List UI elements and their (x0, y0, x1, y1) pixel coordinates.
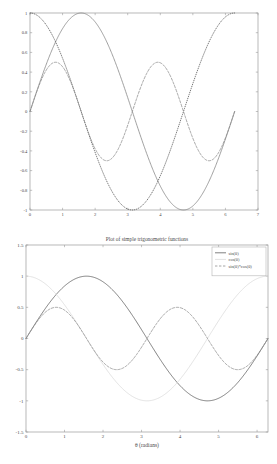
top-plot-canvas: 0123456710.80.60.40.20-0.2-0.4-0.6-0.8-1 (0, 0, 277, 232)
y-tick-label: -0.5 (15, 367, 23, 372)
x-tick-label: 2 (94, 212, 97, 217)
chart-title: Plot of simple trigonometric functions (106, 236, 188, 242)
plot-frame (30, 13, 258, 210)
series-curve-2 (26, 307, 268, 369)
y-tick-label: -1.5 (15, 430, 23, 435)
series-curve-2 (30, 62, 235, 161)
x-tick-label: 5 (217, 434, 220, 439)
y-tick-label: -1 (24, 208, 29, 213)
x-tick-label: 7 (257, 212, 260, 217)
x-tick-label: 0 (29, 212, 32, 217)
x-tick-label: 5 (192, 212, 195, 217)
y-tick-label: 1.5 (17, 243, 24, 248)
y-tick-label: -1 (19, 399, 24, 404)
x-tick-label: 6 (256, 434, 259, 439)
x-tick-label: 1 (61, 212, 64, 217)
x-axis-title: θ (radians) (135, 442, 159, 449)
y-tick-label: 0 (21, 336, 24, 341)
y-tick-label: 0.8 (22, 30, 28, 35)
legend-label-2: sin(θ)*cos(θ) (229, 264, 253, 269)
y-tick-label: -0.6 (20, 168, 28, 173)
x-tick-label: 4 (159, 212, 162, 217)
x-tick-label: 6 (224, 212, 227, 217)
y-tick-label: 0.6 (22, 50, 28, 55)
y-tick-label: 0.5 (17, 305, 24, 310)
top-figure-panel: 0123456710.80.60.40.20-0.2-0.4-0.6-0.8-1 (0, 0, 277, 232)
top-plot-group: 0123456710.80.60.40.20-0.2-0.4-0.6-0.8-1 (20, 11, 260, 218)
bottom-plot-group: Plot of simple trigonometric functions01… (15, 236, 268, 450)
x-tick-label: 3 (127, 212, 130, 217)
y-tick-label: -0.8 (20, 188, 28, 193)
legend-label-0: sin(θ) (229, 251, 240, 256)
y-tick-label: 0.2 (22, 90, 28, 95)
x-tick-label: 2 (102, 434, 105, 439)
x-tick-label: 1 (63, 434, 66, 439)
legend[interactable]: sin(θ)cos(θ)sin(θ)*cos(θ) (212, 247, 266, 276)
y-tick-label: 1 (21, 274, 24, 279)
legend-label-1: cos(θ) (229, 257, 240, 262)
y-tick-label: 1 (25, 11, 28, 16)
x-tick-label: 4 (179, 434, 182, 439)
y-tick-label: 0.4 (22, 70, 28, 75)
y-tick-label: -0.4 (20, 149, 28, 154)
y-tick-label: 0 (25, 109, 28, 114)
bottom-figure-panel: Plot of simple trigonometric functions01… (0, 232, 277, 464)
x-tick-label: 0 (25, 434, 28, 439)
y-tick-label: -0.2 (20, 129, 28, 134)
x-tick-label: 3 (140, 434, 143, 439)
bottom-plot-canvas: Plot of simple trigonometric functions01… (0, 232, 277, 464)
